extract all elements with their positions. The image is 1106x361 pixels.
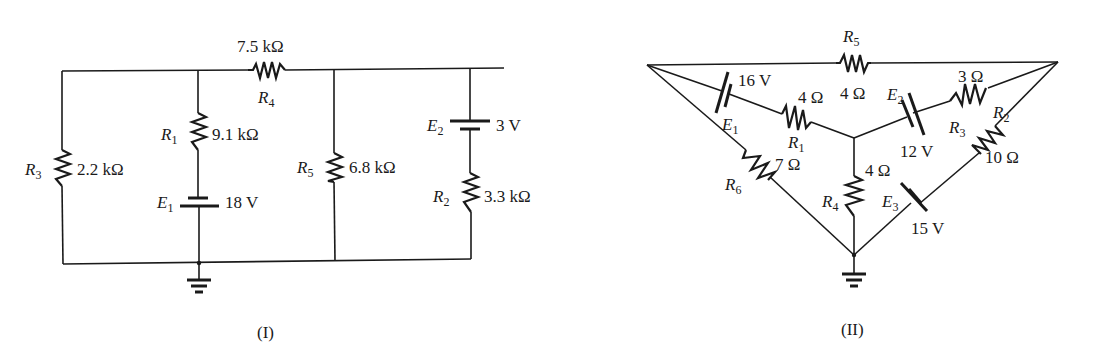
wire-apex-r3 xyxy=(995,62,1058,126)
battery-e2-plate-short xyxy=(902,100,913,127)
r5-label: R5 xyxy=(842,27,859,49)
r4-value: 4 Ω xyxy=(865,161,890,180)
r3-label: R3 xyxy=(24,160,41,182)
r3-value: 10 Ω xyxy=(985,148,1019,167)
ground-icon xyxy=(842,255,866,286)
r2-value: 3 Ω xyxy=(958,67,983,86)
e2-value: 3 V xyxy=(496,116,521,135)
battery-e1-plate-short xyxy=(725,84,731,107)
r1-value: 4 Ω xyxy=(798,88,823,107)
battery-e2-plate-long xyxy=(909,93,924,135)
r1-value: 9.1 kΩ xyxy=(212,125,259,144)
e2-value: 12 V xyxy=(900,142,934,161)
figure-caption-i: (I) xyxy=(257,323,274,342)
wire-top-left xyxy=(62,70,248,71)
r5-value: 6.8 kΩ xyxy=(349,158,396,177)
ground-icon xyxy=(187,263,211,292)
wire-center-e2 xyxy=(854,117,907,138)
resistor-r1 xyxy=(782,106,811,130)
wire-e1-r1 xyxy=(729,94,782,114)
wire-bottom xyxy=(63,259,471,264)
wire-apex-e1 xyxy=(647,65,722,91)
e1-value: 18 V xyxy=(225,193,259,212)
r1-label: R1 xyxy=(160,125,177,147)
resistor-r2 xyxy=(464,173,478,212)
wire-top-right xyxy=(871,62,1058,63)
r4-label: R4 xyxy=(821,192,838,214)
r6-value: 7 Ω xyxy=(775,155,800,174)
resistor-r2 xyxy=(950,84,986,105)
r3-value: 2.2 kΩ xyxy=(77,160,124,179)
wire-r6-bottom xyxy=(770,177,854,255)
figure-caption-ii: (II) xyxy=(841,320,864,339)
wire-top-right xyxy=(285,68,504,70)
e1-label: E1 xyxy=(156,193,173,215)
e1-value: 16 V xyxy=(738,71,772,90)
battery-e3-plate-short xyxy=(909,189,921,203)
r2-value: 3.3 kΩ xyxy=(484,187,531,206)
wire-top-left xyxy=(647,63,836,65)
resistor-r3 xyxy=(56,150,70,186)
r6-label: R6 xyxy=(724,175,741,197)
e2-label: E2 xyxy=(426,116,443,138)
r3-label: R3 xyxy=(948,118,965,140)
e3-label: E3 xyxy=(881,192,898,214)
circuit-i: 7.5 kΩ R4 R3 2.2 kΩ R1 9.1 kΩ E1 18 V R5… xyxy=(24,37,531,342)
e2-label: E2 xyxy=(886,85,903,107)
r4-value: 7.5 kΩ xyxy=(237,37,284,56)
resistor-r5 xyxy=(836,55,871,72)
wire-r1-center xyxy=(811,122,854,138)
r1-label: R1 xyxy=(787,133,804,155)
wire-r3-bottom xyxy=(62,186,63,264)
r4-label: R4 xyxy=(257,88,274,110)
resistor-r6 xyxy=(743,150,775,180)
wire-apex-r6 xyxy=(647,65,746,150)
r5-label: R5 xyxy=(296,158,313,180)
resistor-r4 xyxy=(846,176,862,216)
resistor-r1 xyxy=(192,113,206,150)
resistor-r4 xyxy=(248,62,285,78)
e1-label: E1 xyxy=(721,115,738,137)
resistor-r5 xyxy=(328,153,342,182)
e3-value: 15 V xyxy=(911,219,945,238)
r5-value: 4 Ω xyxy=(840,84,865,103)
wire-r5-bottom xyxy=(334,182,335,261)
r2-label: R2 xyxy=(432,187,449,209)
wire-e2-r2 xyxy=(913,101,950,113)
circuit-ii: R5 4 Ω 16 V E1 4 Ω R1 7 Ω R6 4 Ω R4 E2 1… xyxy=(647,27,1058,339)
wire-r2-apex xyxy=(988,62,1058,88)
